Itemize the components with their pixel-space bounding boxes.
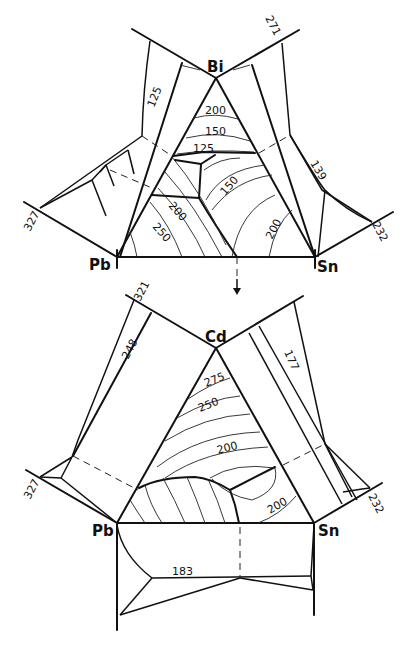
pb-left-wing-bottom bbox=[26, 470, 117, 523]
temp-321: 321 bbox=[131, 279, 152, 304]
pb-phase-line-1 bbox=[106, 165, 114, 186]
bi-sn-liquidus-upper bbox=[282, 43, 290, 135]
isotherm-left-b3 bbox=[187, 477, 205, 523]
pb-cd-solvus-lower bbox=[61, 478, 117, 523]
bi-sn-liquidus-139 bbox=[290, 135, 372, 222]
pb-liquidus-left bbox=[40, 136, 142, 208]
vertex-pb-bottom-label: Pb bbox=[92, 522, 114, 540]
isotherm-label-125: 125 bbox=[193, 142, 214, 155]
isotherm-label-150-right: 150 bbox=[218, 174, 242, 198]
bi-right-wing bbox=[216, 30, 299, 78]
valley-eutectic bbox=[175, 155, 215, 164]
temp-125-binary: 125 bbox=[145, 85, 165, 109]
top-ternary-diagram: Bi Pb Sn 327 232 271 125 139 200 150 125… bbox=[21, 13, 393, 278]
isotherm-label-150-top: 150 bbox=[205, 125, 226, 138]
cd-sn-liquidus-177 bbox=[294, 302, 325, 444]
pb-sn-liquidus-pb bbox=[117, 525, 152, 578]
ternary-phase-diagram-figure: Bi Pb Sn 327 232 271 125 139 200 150 125… bbox=[0, 0, 408, 646]
cd-sn-boundary-2 bbox=[259, 326, 357, 500]
temp-327-bottom: 327 bbox=[21, 477, 42, 502]
isotherm-label-250: 250 bbox=[150, 220, 174, 244]
isotherm-left-b0 bbox=[130, 500, 145, 523]
isotherm-300 bbox=[130, 232, 137, 257]
temp-183: 183 bbox=[172, 565, 193, 578]
pb-cd-tie-dash bbox=[73, 456, 138, 490]
isotherm-left-1 bbox=[172, 157, 226, 245]
temp-327-top: 327 bbox=[21, 209, 42, 234]
isotherm-label-200-left: 200 bbox=[166, 199, 190, 223]
temp-248: 248 bbox=[119, 337, 140, 362]
sn-solvus bbox=[318, 190, 325, 257]
vertex-cd-label: Cd bbox=[205, 328, 227, 346]
temp-232-top: 232 bbox=[369, 219, 390, 244]
isotherm-label-250: 250 bbox=[196, 395, 220, 415]
temp-177: 177 bbox=[281, 348, 301, 372]
temp-271: 271 bbox=[262, 13, 283, 38]
isotherm-left-b1 bbox=[145, 485, 162, 523]
isotherm-label-200-top: 200 bbox=[205, 104, 226, 117]
pb-sn-solidus-right bbox=[240, 578, 313, 590]
isotherm-label-200-mid: 200 bbox=[215, 439, 239, 457]
temp-232-bottom: 232 bbox=[365, 491, 386, 516]
valley-bottom bbox=[199, 198, 237, 257]
isotherm-left-b2 bbox=[163, 478, 185, 523]
sn-solvus-bottom bbox=[325, 444, 352, 497]
isotherm-inner-1 bbox=[204, 158, 240, 170]
isotherm-label-275: 275 bbox=[202, 370, 226, 390]
down-arrow-icon bbox=[233, 279, 241, 295]
isotherm-label-200-right: 200 bbox=[263, 217, 284, 242]
pb-sn-solidus-left bbox=[120, 578, 240, 615]
cd-left-wing bbox=[126, 295, 216, 348]
valley-eutectic-bottom bbox=[230, 467, 275, 523]
cd-right-wing bbox=[216, 296, 303, 348]
bi-left-wing bbox=[132, 29, 216, 78]
bi-sn-tie-dash bbox=[259, 135, 290, 153]
vertex-pb-top-label: Pb bbox=[89, 256, 111, 274]
pb-cd-solvus bbox=[40, 457, 72, 478]
pb-bi-liquidus-125 bbox=[142, 41, 150, 136]
pb-cd-boundary bbox=[73, 313, 151, 456]
pb-phase-line-4 bbox=[128, 150, 134, 174]
sn-liquidus-bottom bbox=[325, 444, 370, 488]
pb-phase-line-2 bbox=[92, 180, 106, 216]
vertex-sn-top-label: Sn bbox=[317, 258, 338, 276]
vertex-sn-bottom-label: Sn bbox=[318, 522, 339, 540]
pb-cd-liquidus bbox=[72, 300, 134, 457]
bottom-ternary-diagram: Cd Pb Sn 327 232 321 248 177 183 275 250… bbox=[21, 279, 387, 630]
pb-phase-line-3 bbox=[100, 165, 106, 172]
vertex-bi-label: Bi bbox=[207, 58, 224, 76]
